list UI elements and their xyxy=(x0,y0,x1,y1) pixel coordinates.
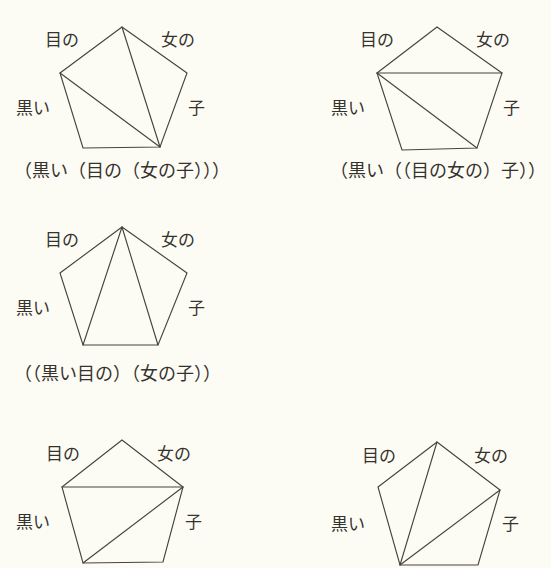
figure-page: 目の 女の 黒い 子 （黒い（目の（女の子））） 目の 女の 黒い 子 （黒い（… xyxy=(0,0,551,568)
edge-label-top-left-5: 目の xyxy=(362,448,396,465)
edge-label-top-right-5: 女の xyxy=(474,448,508,465)
edge-label-right-5: 子 xyxy=(502,516,519,533)
pentagon-figure-5 xyxy=(0,0,551,568)
pentagon-diagram-5 xyxy=(0,0,551,568)
edge-label-left-5: 黒い xyxy=(331,516,365,533)
